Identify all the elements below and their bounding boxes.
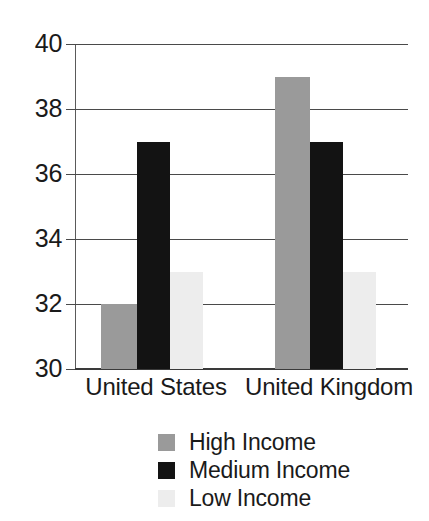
- y-tick-mark-40: [66, 44, 75, 45]
- x-axis-label-united-kingdom: United Kingdom: [240, 374, 418, 400]
- y-tick-mark-32: [66, 304, 75, 305]
- bar-united-kingdom-low-income: [343, 272, 376, 369]
- y-tick-mark-30: [66, 369, 75, 370]
- bar-united-states-low-income: [170, 272, 203, 369]
- y-tick-label-30: 30: [6, 356, 62, 381]
- legend-item-medium-income: Medium Income: [0, 456, 429, 484]
- legend-item-high-income: High Income: [0, 428, 429, 456]
- legend-label-low-income: Low Income: [189, 487, 311, 510]
- y-tick-label-32: 32: [6, 291, 62, 316]
- legend-swatch-high-income: [158, 434, 175, 451]
- bar-united-kingdom-medium-income: [310, 142, 343, 369]
- legend-swatch-low-income: [158, 490, 175, 507]
- bar-united-states-high-income: [101, 304, 137, 369]
- y-tick-label-36: 36: [6, 161, 62, 186]
- legend-item-low-income: Low Income: [0, 484, 429, 512]
- y-tick-mark-34: [66, 239, 75, 240]
- bar-united-states-medium-income: [137, 142, 170, 369]
- gridline-40: [75, 44, 408, 45]
- legend-label-medium-income: Medium Income: [189, 459, 350, 482]
- bar-chart: 40 38 36 34 32 30 United States United K…: [0, 0, 429, 521]
- plot-area: [75, 44, 408, 369]
- gridline-34: [75, 239, 408, 240]
- gridline-36: [75, 174, 408, 175]
- gridline-38: [75, 109, 408, 110]
- y-tick-label-40: 40: [6, 31, 62, 56]
- bar-united-kingdom-high-income: [275, 77, 310, 369]
- chart-legend: High Income Medium Income Low Income: [0, 428, 429, 512]
- legend-swatch-medium-income: [158, 462, 175, 479]
- y-tick-mark-38: [66, 109, 75, 110]
- y-tick-mark-36: [66, 174, 75, 175]
- x-axis-label-united-states: United States: [76, 374, 236, 400]
- legend-label-high-income: High Income: [189, 431, 316, 454]
- y-tick-label-38: 38: [6, 96, 62, 121]
- y-tick-label-34: 34: [6, 226, 62, 251]
